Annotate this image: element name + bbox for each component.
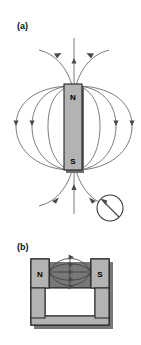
arrow-bottom-axis	[71, 184, 76, 190]
magnetic-field-figure: (a)	[0, 0, 141, 345]
arrow-outer-left	[13, 121, 18, 127]
panel-b: (b) N S	[17, 242, 113, 329]
bar-magnet-north-label: N	[70, 93, 76, 102]
u-magnet-north-label: N	[37, 270, 43, 279]
bar-magnet-south-label: S	[70, 157, 76, 166]
arrow-top-axis	[71, 58, 76, 64]
u-magnet-left-column	[31, 288, 45, 318]
u-magnet-south-label: S	[97, 270, 103, 279]
arrow-outer-right	[129, 121, 134, 127]
arrow-inner-left	[29, 121, 34, 127]
panel-a-label: (a)	[17, 21, 28, 31]
u-magnet-inner-cavity	[45, 288, 95, 316]
arrow-bottom-right-flare	[89, 198, 96, 204]
compass	[97, 195, 123, 221]
panel-b-label: (b)	[17, 242, 29, 252]
arrow-bottom-left-flare	[52, 198, 59, 204]
bar-magnet: N S	[64, 84, 84, 173]
u-magnet-right-column	[95, 288, 109, 318]
panel-a: (a)	[13, 21, 134, 221]
arrow-inner-right	[113, 121, 118, 127]
